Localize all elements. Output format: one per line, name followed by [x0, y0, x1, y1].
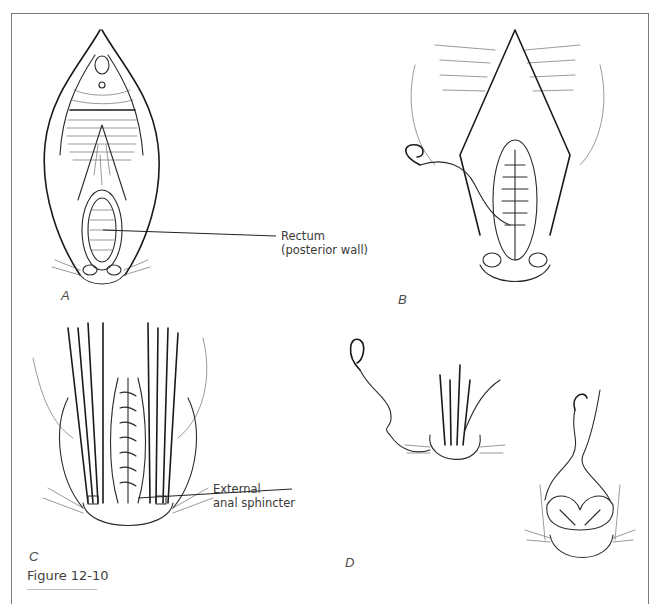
panel-c-letter: C — [29, 549, 38, 564]
panel-a-drawing — [40, 25, 170, 290]
curved-needle — [351, 339, 364, 370]
panel-d-illustration-left — [345, 335, 545, 475]
sphincter-approximation — [547, 496, 613, 530]
rectum-callout: Rectum (posterior wall) — [281, 229, 368, 257]
suture-thread — [420, 162, 510, 225]
curved-needle — [574, 394, 587, 410]
allis-clamps — [68, 323, 178, 503]
suture-thread — [360, 370, 430, 452]
panel-d-letter: D — [345, 555, 354, 570]
skin-hatching — [435, 45, 580, 91]
sphincter-callout: External anal sphincter — [213, 482, 295, 510]
suture-thread — [545, 390, 610, 500]
panel-d-right-drawing — [525, 390, 635, 565]
panel-b-illustration — [395, 25, 620, 290]
rectum-sublabel: (posterior wall) — [281, 243, 368, 257]
panel-a-letter: A — [61, 288, 70, 303]
panel-a-illustration — [40, 25, 170, 290]
rectal-suture-line — [120, 378, 136, 503]
rectum-label: Rectum — [281, 229, 368, 243]
curved-needle — [406, 145, 423, 165]
panel-c-illustration — [28, 318, 228, 543]
panel-b-letter: B — [398, 292, 407, 307]
figure-caption: Figure 12-10 — [27, 568, 109, 583]
panel-b-drawing — [395, 25, 620, 290]
sphincter-sublabel: anal sphincter — [213, 496, 295, 510]
rectum-leader-line — [100, 228, 280, 238]
clamps — [440, 365, 470, 445]
sphincter-label: External — [213, 482, 295, 496]
panel-d-illustration-right — [525, 390, 635, 565]
panel-c-drawing — [28, 318, 228, 543]
panel-d-left-drawing — [345, 335, 545, 475]
caption-underline — [27, 589, 97, 590]
